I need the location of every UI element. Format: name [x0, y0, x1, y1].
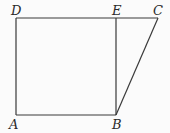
label-a: A: [8, 117, 18, 132]
label-c: C: [153, 3, 163, 18]
figure: D E C A B: [0, 0, 170, 133]
segment-bc: [116, 18, 158, 115]
geometry-diagram: D E C A B: [0, 0, 170, 133]
label-d: D: [10, 3, 22, 18]
label-e: E: [111, 3, 122, 18]
label-b: B: [111, 117, 122, 132]
